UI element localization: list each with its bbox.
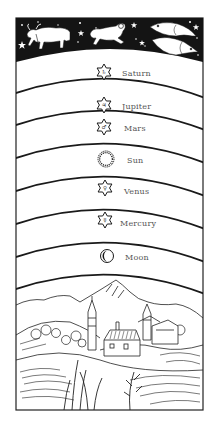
sphere-label-venus: Venus bbox=[123, 187, 149, 196]
saturn-symbol: ♄ bbox=[102, 69, 107, 75]
jupiter-symbol: ♃ bbox=[102, 102, 107, 108]
celestial-spheres-diagram: ♄ Saturn ♃ Jupiter ♂ Mars Sun ♀ Venus ☿ … bbox=[0, 0, 216, 427]
sphere-label-mercury: Mercury bbox=[120, 219, 156, 228]
mars-symbol: ♂ bbox=[102, 124, 107, 130]
sphere-label-saturn: Saturn bbox=[122, 69, 151, 78]
sphere-label-mars: Mars bbox=[124, 124, 146, 133]
moon-icon bbox=[101, 250, 114, 263]
sphere-label-sun: Sun bbox=[127, 156, 143, 165]
sun-icon bbox=[98, 151, 114, 167]
venus-symbol: ♀ bbox=[103, 185, 107, 191]
sphere-label-jupiter: Jupiter bbox=[121, 102, 151, 111]
mercury-symbol: ☿ bbox=[103, 217, 106, 223]
sphere-label-moon: Moon bbox=[125, 253, 149, 262]
